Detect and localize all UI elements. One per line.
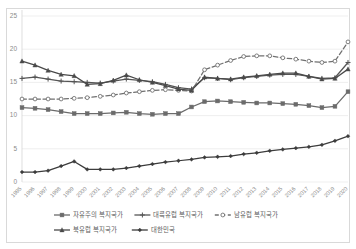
data-point-marker [46,169,50,173]
data-point-marker [268,101,272,105]
data-point-marker [124,91,128,95]
data-point-marker [320,106,324,110]
legend-item[interactable]: 대한민국 [132,225,175,234]
data-point-marker [229,100,233,104]
x-tick-label: 2020 [336,185,349,198]
data-point-marker [33,106,37,110]
data-point-marker [124,77,129,82]
x-tick-label: 1998 [49,185,62,198]
data-point-marker [46,77,51,82]
line-chart: 0510152025 19951996199719981999200020012… [0,0,356,249]
legend-item[interactable]: 대륙유럽 복지국가 [134,210,203,219]
x-tick-label: 2000 [75,185,88,198]
legend-label: 남유럽 복지국가 [234,210,278,219]
data-point-marker [268,149,272,153]
data-point-marker [346,134,350,138]
data-point-marker [111,93,115,97]
legend-marker-icon [140,213,145,218]
x-tick-label: 2013 [244,185,257,198]
data-point-marker [137,112,141,116]
data-point-marker [346,67,350,71]
x-tick-label: 1999 [62,185,75,198]
y-tick-label: 20 [10,45,18,52]
data-point-marker [320,61,324,65]
data-point-marker [281,148,285,152]
data-point-marker [216,155,220,159]
x-tick-label: 2019 [323,185,336,198]
y-tick-label: 10 [10,111,18,118]
legend-marker-icon [221,213,225,217]
data-point-marker [111,167,115,171]
data-point-marker [346,40,350,44]
data-point-marker [268,54,272,58]
data-point-marker [346,90,350,94]
x-tick-label: 2003 [114,185,127,198]
data-point-marker [46,108,50,112]
x-axis-labels: 1995199619971998199920002001200220032004… [10,185,349,198]
data-point-marker [190,158,194,162]
data-point-marker [255,54,259,58]
data-point-marker [281,56,285,60]
data-point-marker [164,88,168,92]
data-point-marker [190,105,194,109]
x-tick-label: 2007 [166,185,179,198]
x-tick-label: 1995 [10,185,23,198]
x-tick-label: 2015 [270,185,283,198]
data-point-marker [294,146,298,150]
data-point-marker [20,106,24,110]
data-point-marker [124,110,128,114]
data-point-marker [137,90,141,94]
data-point-marker [294,102,298,106]
gridlines [22,10,348,182]
y-tick-label: 25 [10,12,18,19]
x-tick-label: 2004 [127,185,140,198]
data-point-marker [333,139,337,143]
legend-item[interactable]: 남유럽 복지국가 [215,210,278,219]
data-point-marker [72,112,76,116]
x-tick-label: 2011 [219,185,232,198]
data-point-marker [294,57,298,61]
data-point-marker [333,104,337,108]
legend-label: 대한민국 [151,225,175,234]
data-point-marker [203,100,207,104]
legend-marker-icon [60,213,64,217]
series-line [22,61,348,90]
data-point-marker [177,112,181,116]
series-line [22,92,348,115]
legend-item[interactable]: 자유주의 복지국가 [54,210,123,219]
data-point-marker [216,63,220,67]
data-point-marker [164,160,168,164]
data-point-marker [164,112,168,116]
legend-item[interactable]: 북유럽 복지국가 [54,225,117,234]
data-point-marker [20,76,25,81]
series-lines [20,40,351,174]
y-tick-label: 15 [10,78,18,85]
data-point-marker [85,112,89,116]
data-point-marker [20,59,24,63]
series-0 [20,90,350,116]
data-point-marker [124,73,128,77]
x-tick-label: 1996 [23,185,36,198]
data-point-marker [124,166,128,170]
x-tick-label: 2001 [88,185,101,198]
y-tick-label: 5 [13,145,17,152]
x-tick-label: 2002 [101,185,114,198]
data-point-marker [151,162,155,166]
data-point-marker [137,164,141,168]
data-point-marker [72,96,76,100]
data-point-marker [151,112,155,116]
data-point-marker [98,94,102,98]
data-point-marker [33,170,37,174]
data-point-marker [59,97,63,101]
legend-label: 자유주의 복지국가 [73,210,123,219]
series-line [22,42,348,99]
y-tick-label: 0 [13,178,17,185]
data-point-marker [98,167,102,171]
data-point-marker [216,99,220,103]
x-tick-label: 2009 [192,185,205,198]
data-point-marker [242,55,246,59]
data-point-marker [229,59,233,63]
data-point-marker [33,75,38,80]
x-tick-label: 2008 [179,185,192,198]
data-point-marker [281,102,285,106]
